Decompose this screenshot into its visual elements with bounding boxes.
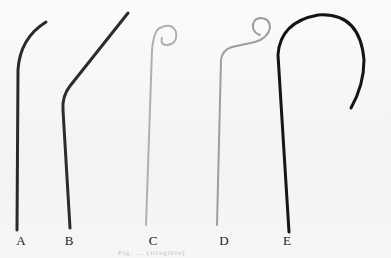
catheter-illustration [0,0,391,258]
catheter-b [63,13,128,228]
catheter-d [217,18,270,225]
figure-caption: Fig. ... (illegible) [118,249,298,257]
label-c: C [149,233,158,249]
label-d: D [219,233,228,249]
label-b: B [65,233,74,249]
catheter-figure: A B C D E Fig. ... (illegible) [0,0,391,258]
catheter-e [278,15,364,232]
label-a: A [16,233,25,249]
catheter-c [146,26,176,225]
label-e: E [283,233,291,249]
catheter-a [17,22,46,230]
